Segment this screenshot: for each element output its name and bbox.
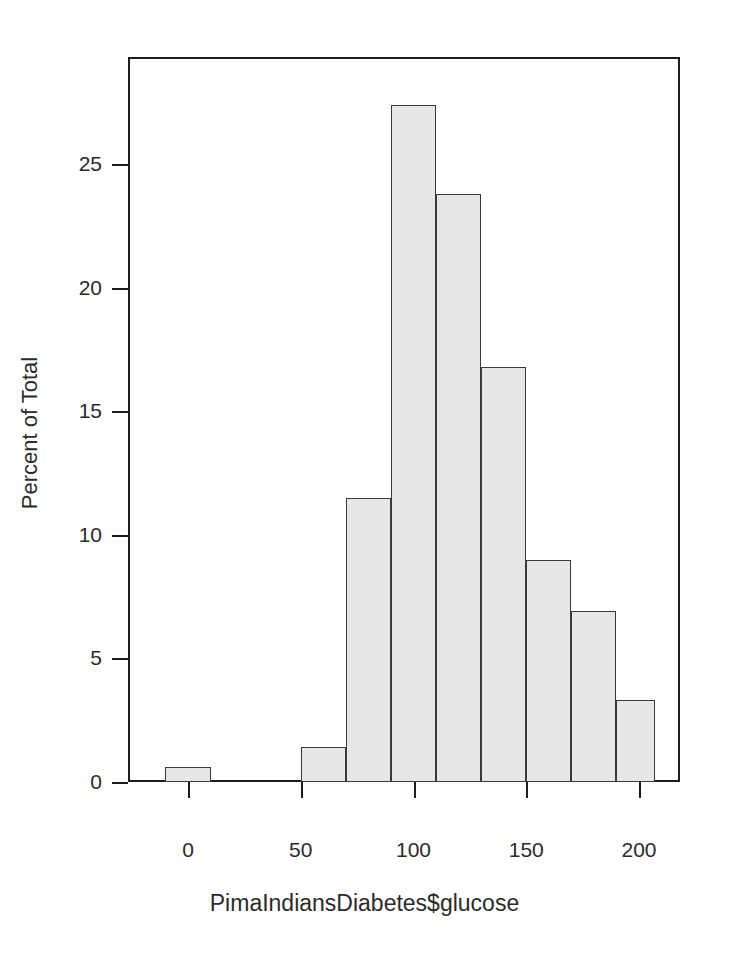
- y-axis-tick-label: 0: [42, 770, 102, 794]
- histogram-bar: [436, 194, 481, 782]
- x-axis-tick: [301, 782, 303, 798]
- histogram-bar: [481, 367, 526, 782]
- histogram-chart: 0510152025 050100150200 Percent of Total…: [0, 0, 729, 962]
- y-axis-tick: [112, 782, 128, 784]
- x-axis-tick-label: 200: [599, 838, 679, 862]
- y-axis-tick-label: 15: [42, 399, 102, 423]
- y-axis-tick: [112, 164, 128, 166]
- histogram-bar: [391, 105, 436, 782]
- y-axis-tick-label: 5: [42, 646, 102, 670]
- x-axis-tick: [414, 782, 416, 798]
- x-axis-tick-label: 150: [486, 838, 566, 862]
- histogram-bar: [346, 498, 391, 782]
- y-axis-tick-label: 20: [42, 276, 102, 300]
- x-axis-title: PimaIndiansDiabetes$glucose: [0, 890, 729, 917]
- y-axis-tick-label: 10: [42, 523, 102, 547]
- histogram-bar: [571, 611, 616, 782]
- y-axis-tick: [112, 411, 128, 413]
- x-axis-tick: [639, 782, 641, 798]
- y-axis-tick: [112, 535, 128, 537]
- x-axis-tick-label: 50: [261, 838, 341, 862]
- y-axis-tick-label: 25: [42, 152, 102, 176]
- histogram-bar: [165, 767, 210, 782]
- x-axis-tick-label: 0: [148, 838, 228, 862]
- y-axis-tick: [112, 288, 128, 290]
- histogram-bar: [526, 560, 571, 782]
- x-axis-tick: [188, 782, 190, 798]
- plot-area: [130, 59, 678, 782]
- x-axis-tick-label: 100: [374, 838, 454, 862]
- y-axis-tick: [112, 658, 128, 660]
- histogram-bar: [301, 747, 346, 782]
- y-axis-title: Percent of Total: [17, 303, 43, 563]
- x-axis-tick: [526, 782, 528, 798]
- histogram-bar: [616, 700, 654, 782]
